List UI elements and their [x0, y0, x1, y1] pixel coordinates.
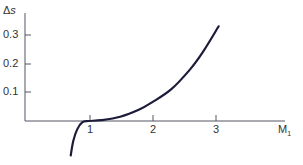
chart-plot: [0, 0, 303, 165]
data-curve: [71, 26, 219, 155]
y-tick-label-0.2: 0.2: [3, 58, 18, 69]
s-symbol: s: [10, 4, 16, 16]
x-axis-label: M1: [278, 124, 291, 137]
m-symbol: M: [278, 123, 287, 135]
y-tick-label-0.3: 0.3: [3, 29, 18, 40]
y-axis-label: Δs: [3, 5, 16, 16]
x-tick-label-3: 3: [213, 124, 219, 135]
x-tick-label-2: 2: [150, 124, 156, 135]
subscript-1: 1: [287, 130, 291, 137]
y-tick-label-0.1: 0.1: [3, 86, 18, 97]
x-tick-label-1: 1: [87, 124, 93, 135]
